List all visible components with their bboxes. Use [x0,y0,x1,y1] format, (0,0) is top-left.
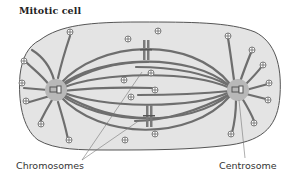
plus-marker [148,70,154,76]
plus-marker [67,29,73,35]
plus-marker [225,33,231,39]
chromosomes-label: Chromosomes [16,160,84,171]
plus-marker [251,120,257,126]
plus-marker [228,131,234,137]
plus-marker [121,77,127,83]
plus-marker [155,28,161,34]
plus-marker [260,62,266,68]
plus-marker [122,137,128,143]
plus-marker [125,36,131,42]
plus-marker [266,80,272,86]
plus-marker [21,58,27,64]
right-centrosome [227,79,249,101]
left-centrosome [45,79,67,101]
plus-marker [19,80,25,86]
plus-marker [152,87,158,93]
mitotic-cell-diagram [0,0,289,182]
plus-marker [265,97,271,103]
plus-marker [128,94,134,100]
plus-marker [66,137,72,143]
centrosome-label: Centrosome [219,160,277,171]
plus-marker [38,121,44,127]
plus-marker [23,98,29,104]
plus-marker [152,131,158,137]
plus-marker [249,47,255,53]
